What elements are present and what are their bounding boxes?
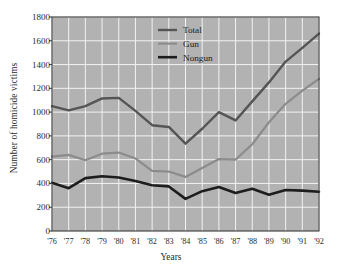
x-tick-label: '84 xyxy=(181,237,191,246)
y-tick-label: 1800 xyxy=(16,12,50,22)
x-tick-label: '76 xyxy=(47,237,57,246)
x-tick-label: '86 xyxy=(214,237,224,246)
legend-label-gun: Gun xyxy=(183,39,199,49)
y-axis-title: Number of homicide victims xyxy=(9,18,19,218)
y-tick-label: 200 xyxy=(16,202,50,212)
x-tick-label: '91 xyxy=(297,237,307,246)
x-tick-label: '88 xyxy=(247,237,257,246)
x-tick-label: '82 xyxy=(147,237,157,246)
y-tick-label: 1400 xyxy=(16,60,50,70)
x-tick-label: '87 xyxy=(231,237,241,246)
x-tick-label: '80 xyxy=(114,237,124,246)
x-tick-label: '78 xyxy=(81,237,91,246)
x-axis-title: Years xyxy=(0,252,342,262)
x-tick-label: '89 xyxy=(264,237,274,246)
y-tick-label: 800 xyxy=(16,131,50,141)
x-tick-label: '81 xyxy=(131,237,141,246)
x-tick-label: '83 xyxy=(164,237,174,246)
x-tick-label: '77 xyxy=(64,237,74,246)
legend-label-nongun: Nongun xyxy=(183,53,213,63)
y-tick-label: 1200 xyxy=(16,83,50,93)
homicide-victims-line-chart: TotalGunNongun 0200400600800100012001400… xyxy=(0,0,342,276)
x-tick-label: '90 xyxy=(281,237,291,246)
x-axis-tick-labels: '76'77'78'79'80'81'82'83'84'85'86'87'88'… xyxy=(0,234,342,250)
x-tick-label: '92 xyxy=(314,237,324,246)
y-tick-label: 1600 xyxy=(16,36,50,46)
y-tick-label: 1000 xyxy=(16,107,50,117)
y-tick-label: 600 xyxy=(16,155,50,165)
x-tick-label: '85 xyxy=(197,237,207,246)
legend-label-total: Total xyxy=(183,25,202,35)
y-tick-label: 400 xyxy=(16,178,50,188)
x-tick-label: '79 xyxy=(97,237,107,246)
